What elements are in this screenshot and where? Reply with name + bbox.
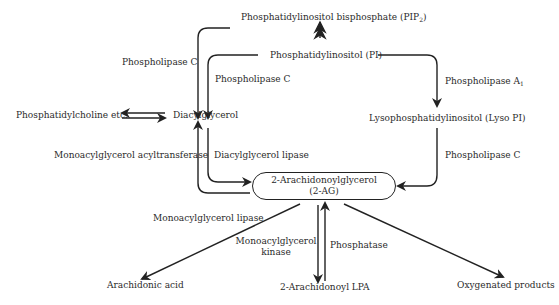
- node-2ag: 2-Arachidonoylglycerol (2-AG): [252, 172, 396, 200]
- enzyme-monoacylglycerol-acyltransferase: Monoacylglycerol acyltransferase: [54, 150, 208, 161]
- enzyme-diacylglycerol-lipase: Diacylglycerol lipase: [214, 150, 309, 161]
- enzyme-phospholipase-c-inner: Phospholipase C: [215, 74, 290, 85]
- node-2-arachidonoyl-lpa: 2-Arachidonoyl LPA: [280, 282, 370, 293]
- enzyme-monoacylglycerol-kinase: Monoacylglycerol kinase: [236, 236, 317, 258]
- node-oxygenated-products: Oxygenated products: [457, 280, 555, 291]
- node-phosphatidylcholine: Phosphatidylcholine etc.: [16, 110, 128, 121]
- node-lysopi: Lysophosphatidylinositol (Lyso PI): [369, 113, 525, 124]
- node-arachidonic-acid: Arachidonic acid: [107, 280, 184, 291]
- lysopi-to-2ag-arrow: [398, 128, 437, 186]
- node-pip2: Phosphatidylinositol bisphosphate (PIP2): [241, 12, 427, 25]
- enzyme-monoacylglycerol-lipase: Monoacylglycerol lipase: [153, 213, 264, 224]
- pi-to-lysopi-arrow: [378, 55, 437, 106]
- node-pi: Phosphatidylinositol (PI): [270, 50, 382, 61]
- pip2-to-dag-arrow: [198, 28, 230, 118]
- node-diacylglycerol: Diacylglycerol: [173, 110, 238, 121]
- pi-to-dag-arrow: [208, 55, 258, 118]
- enzyme-phospholipase-c-outer: Phospholipase C: [122, 57, 197, 68]
- enzyme-phospholipase-a1: Phospholipase A1: [445, 76, 524, 89]
- pathway-diagram: Phosphatidylinositol bisphosphate (PIP2)…: [0, 0, 559, 305]
- enzyme-phosphatase: Phosphatase: [330, 240, 388, 251]
- enzyme-phospholipase-c-lyso: Phospholipase C: [445, 150, 520, 161]
